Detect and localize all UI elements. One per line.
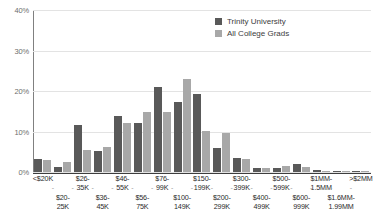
bar [282,166,290,172]
x-axis-tick-label: >$2MM [349,175,372,184]
legend-item-all-college-grads: All College Grads [215,29,289,38]
bar [352,171,360,172]
x-axis-tick-label: $56-75K [135,194,149,211]
bar-group [73,10,93,172]
bar-group [33,10,53,172]
y-axis-tick-label: 30% [15,46,29,55]
x-axis-tick: $46-55K- [113,174,133,219]
bar [262,168,270,172]
bar-group [331,10,351,172]
y-axis-tick-label: 0% [19,168,29,177]
bar-group [351,10,371,172]
x-axis-tick: $1.6MM-1.99MM- [331,174,351,219]
legend-label: Trinity University [227,17,286,26]
x-axis-tick-label: $36-45K [96,194,110,211]
legend-swatch-icon [215,18,222,25]
bar-group [291,10,311,172]
bar [154,87,162,172]
bar [103,147,111,173]
bar [34,159,42,172]
bar [134,123,142,172]
bar-group [192,10,212,172]
bar [222,133,230,172]
legend-label: All College Grads [227,29,289,38]
x-axis-tick-label: $500-599K [273,175,291,192]
x-axis-tick: $600-999K- [291,174,311,219]
y-axis-tick-label: 40% [15,6,29,15]
bar [193,94,201,172]
bar [174,102,182,172]
x-axis-tick-label: $100-149K [173,194,191,211]
x-axis-tick: $300-399K- [232,174,252,219]
bar [213,148,221,172]
bar [242,159,250,172]
x-axis-tick: <$20K- [33,174,53,219]
bar [183,79,191,172]
bar [83,150,91,172]
bar [114,116,122,172]
x-axis-labels: <$20K-$20-25K-$26-35K-$36-45K-$46-55K-$5… [33,174,371,219]
legend-swatch-icon [215,30,222,37]
bar [293,164,301,172]
bar [143,112,151,172]
bar [43,160,51,172]
bar [74,125,82,172]
bar [342,171,350,172]
bar [63,162,71,172]
x-axis-tick: $400-499K- [252,174,272,219]
bar-group [93,10,113,172]
x-axis-tick: $36-45K- [93,174,113,219]
legend-item-trinity-university: Trinity University [215,17,289,26]
x-axis-tick-label: $600-999K [292,194,310,211]
x-axis-tick: $20-25K- [53,174,73,219]
x-axis-tick-label: $300-399K [233,175,251,192]
x-axis-tick: $200-299K- [212,174,232,219]
x-axis-tick-label: $150-199K [193,175,211,192]
plot-area: 0%10%20%30%40% [33,10,371,172]
bar-group [152,10,172,172]
x-axis-tick: $100-149K- [172,174,192,219]
bar-groups [33,10,371,172]
bar-group [53,10,73,172]
x-axis-tick: $26-35K- [73,174,93,219]
bar [302,167,310,172]
x-axis-tick: $150-199K- [192,174,212,219]
x-axis-tick-label: <$20K [33,175,53,184]
gridline: 0% [33,172,371,173]
bar-group [132,10,152,172]
y-axis-tick-label: 20% [15,87,29,96]
bar [273,168,281,172]
x-axis-tick-label: $1MM-1.5MM [310,175,332,192]
bar [94,151,102,172]
bar-group [172,10,192,172]
x-axis-tick-label: $200-299K [213,194,231,211]
x-axis-tick-label: $20-25K [56,194,70,211]
x-axis-tick-label: $400-499K [253,194,271,211]
income-distribution-bar-chart: 0%10%20%30%40% Trinity University All Co… [0,0,379,219]
x-axis-tick: >$2MM [351,174,371,219]
y-axis-tick-label: 10% [15,127,29,136]
x-axis-tick-label: $76-99K [155,175,169,192]
bar [313,170,321,172]
bar [54,167,62,172]
bar-group [311,10,331,172]
x-axis-tick-label: $46-55K [116,175,130,192]
chart-legend: Trinity University All College Grads [215,17,289,38]
bar [361,171,369,172]
x-axis-tick-label: $26-35K [76,175,90,192]
x-axis-tick: $76-99K- [152,174,172,219]
bar [163,112,171,172]
x-axis-tick: $56-75K- [132,174,152,219]
bar [202,131,210,172]
bar [123,123,131,172]
bar [233,158,241,172]
bar [333,171,341,172]
bar [322,171,330,172]
bar [253,168,261,172]
bar-group [113,10,133,172]
x-axis-tick: $500-599K- [272,174,292,219]
